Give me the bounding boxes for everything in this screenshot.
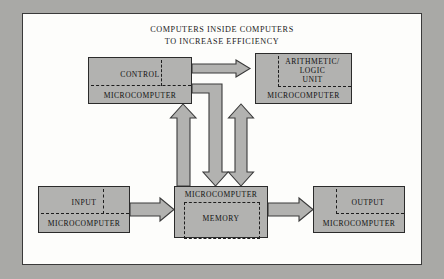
figure-title: COMPUTERS INSIDE COMPUTERS TO INCREASE E… bbox=[0, 24, 444, 47]
block-memory-secondary-label: MEMORY bbox=[175, 214, 267, 223]
block-output[interactable]: OUTPUT MICROCOMPUTER bbox=[313, 186, 405, 233]
control-inner-dashed-horizontal bbox=[91, 85, 191, 86]
block-memory[interactable]: MICROCOMPUTER MEMORY bbox=[174, 186, 268, 238]
block-alu-primary-label: ARITHMETIC/ LOGIC UNIT bbox=[272, 57, 353, 85]
block-control[interactable]: CONTROL MICROCOMPUTER bbox=[88, 57, 192, 104]
block-input-primary-label: INPUT bbox=[39, 198, 129, 207]
output-inner-dashed-horizontal bbox=[336, 213, 404, 214]
block-input[interactable]: INPUT MICROCOMPUTER bbox=[38, 186, 130, 233]
alu-inner-dashed-horizontal bbox=[278, 86, 351, 87]
input-inner-dashed-horizontal bbox=[41, 213, 129, 214]
block-input-secondary-label: MICROCOMPUTER bbox=[39, 219, 129, 228]
block-memory-primary-label: MICROCOMPUTER bbox=[175, 190, 267, 199]
block-control-primary-label: CONTROL bbox=[89, 70, 191, 79]
block-output-secondary-label: MICROCOMPUTER bbox=[314, 219, 404, 228]
block-output-primary-label: OUTPUT bbox=[330, 198, 406, 207]
block-control-secondary-label: MICROCOMPUTER bbox=[89, 91, 191, 100]
block-alu-secondary-label: MICROCOMPUTER bbox=[256, 91, 351, 100]
diagram-root: COMPUTERS INSIDE COMPUTERS TO INCREASE E… bbox=[0, 0, 444, 279]
block-arithmetic-logic-unit[interactable]: ARITHMETIC/ LOGIC UNIT MICROCOMPUTER bbox=[255, 53, 352, 104]
